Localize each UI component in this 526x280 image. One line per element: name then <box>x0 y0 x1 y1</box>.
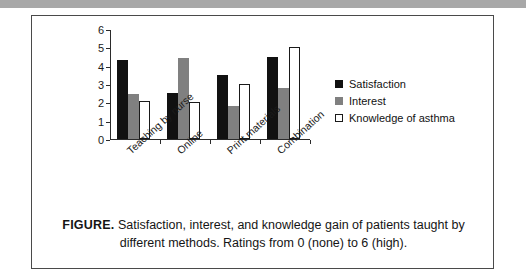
y-tick-mark <box>106 122 110 123</box>
bar <box>117 60 128 139</box>
legend-swatch-icon <box>335 114 343 122</box>
y-tick-label: 1 <box>98 116 104 127</box>
figure-box: 0123456 Teaching by nurseOnlinePrint mat… <box>31 15 494 269</box>
x-separator-tick <box>260 140 261 144</box>
bar <box>228 106 239 139</box>
bar-group <box>217 29 250 139</box>
bar <box>267 57 278 140</box>
y-tick-label: 0 <box>98 135 104 146</box>
y-tick-mark <box>106 30 110 31</box>
bar-group <box>167 29 200 139</box>
y-tick-mark <box>106 85 110 86</box>
legend-item: Satisfaction <box>335 78 485 90</box>
legend-swatch-icon <box>335 80 343 88</box>
bar-group <box>267 29 300 139</box>
bar <box>217 75 228 139</box>
y-axis-line <box>110 30 111 140</box>
y-tick-mark <box>106 67 110 68</box>
legend-label: Satisfaction <box>349 79 406 90</box>
bar-chart: 0123456 Teaching by nurseOnlinePrint mat… <box>32 16 495 212</box>
caption-label: FIGURE. <box>62 218 114 232</box>
chart-legend: SatisfactionInterestKnowledge of asthma <box>335 78 485 129</box>
x-separator-tick <box>160 140 161 144</box>
y-tick-label: 6 <box>98 25 104 36</box>
figure-page: 0123456 Teaching by nurseOnlinePrint mat… <box>0 0 526 280</box>
bar-group <box>117 29 150 139</box>
x-separator-tick <box>310 140 311 144</box>
y-tick-label: 4 <box>98 61 104 72</box>
legend-label: Interest <box>349 96 386 107</box>
y-tick-mark <box>106 140 110 141</box>
x-separator-tick <box>210 140 211 144</box>
scan-edge-bar <box>0 0 526 8</box>
y-tick-mark <box>106 103 110 104</box>
plot-area: 0123456 Teaching by nurseOnlinePrint mat… <box>110 30 310 140</box>
y-tick-label: 2 <box>98 98 104 109</box>
legend-label: Knowledge of asthma <box>349 113 455 124</box>
figure-caption: FIGURE. Satisfaction, interest, and know… <box>32 216 495 252</box>
y-tick-mark <box>106 48 110 49</box>
y-tick-label: 3 <box>98 80 104 91</box>
bar <box>128 94 139 139</box>
legend-item: Knowledge of asthma <box>335 112 485 124</box>
legend-swatch-icon <box>335 97 343 105</box>
caption-text: Satisfaction, interest, and knowledge ga… <box>118 218 465 250</box>
y-tick-label: 5 <box>98 43 104 54</box>
legend-item: Interest <box>335 95 485 107</box>
